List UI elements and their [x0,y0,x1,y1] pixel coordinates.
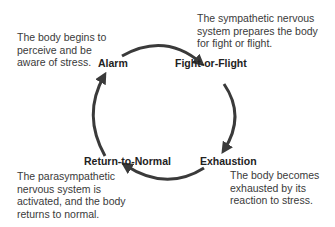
return-description-line: activated, and the body [17,195,126,208]
fight-description-line: system prepares the body [197,25,318,38]
stage-label-fight-or-flight: Fight-or-Flight [175,57,247,69]
stage-label-exhaustion: Exhaustion [200,155,257,167]
stage-label-alarm: Alarm [98,57,128,69]
return-description-line: returns to normal. [17,208,126,221]
return-description-line: The parasympathetic [17,170,126,183]
exhaustion-description-line: The body becomes [230,169,319,182]
exhaustion-description-line: exhausted by its [230,182,319,195]
arrow-fight-to-exhaustion [224,84,235,150]
arrow-return-to-alarm [93,76,105,156]
fight-description-line: for fight or flight. [197,37,318,50]
return-description-line: nervous system is [17,183,126,196]
exhaustion-description-line: reaction to stress. [230,194,319,207]
exhaustion-description: The body becomes exhausted by its reacti… [230,169,319,207]
arrow-exhaustion-to-return [125,165,204,179]
fight-description-line: The sympathetic nervous [197,12,318,25]
stage-label-return-to-normal: Return-to-Normal [84,155,171,167]
fight-or-flight-description: The sympathetic nervous system prepares … [197,12,318,50]
alarm-description-line: perceive and be [17,44,106,57]
alarm-description: The body begins to perceive and be aware… [17,31,106,69]
return-to-normal-description: The parasympathetic nervous system is ac… [17,170,126,220]
alarm-description-line: aware of stress. [17,56,106,69]
alarm-description-line: The body begins to [17,31,106,44]
